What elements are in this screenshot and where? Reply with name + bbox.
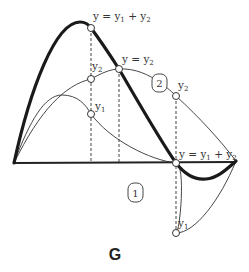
point-sum-top — [88, 25, 95, 32]
point-y2-left — [88, 76, 95, 83]
figure-label: G — [109, 246, 121, 263]
badge-curve-2: 2 — [152, 74, 167, 92]
label-y-eq-y2: y = y2 — [121, 53, 154, 67]
label-sum-top: y = y1 + y2 — [92, 10, 151, 24]
superposition-diagram: 2 1 y = y1 + y2 y2 y1 y = y2 y2 y = y1 +… — [0, 0, 249, 272]
label-sum-right: y = y1 + y2 — [178, 148, 237, 162]
label-y1-bottom: y1 — [177, 217, 188, 231]
baseline-axis — [14, 162, 236, 163]
point-y-eq-y2 — [116, 66, 123, 73]
point-sum-zero — [173, 160, 180, 167]
badge-2-text: 2 — [156, 78, 162, 89]
label-y2-left: y2 — [91, 60, 102, 74]
point-y1-bottom — [173, 230, 180, 237]
point-y1-left — [88, 111, 95, 118]
label-y2-right: y2 — [177, 79, 188, 93]
curve-y1 — [14, 95, 236, 233]
badge-1-text: 1 — [132, 188, 138, 199]
label-y1-left: y1 — [94, 100, 105, 114]
badge-curve-1: 1 — [128, 183, 143, 202]
point-y2-right — [173, 93, 180, 100]
